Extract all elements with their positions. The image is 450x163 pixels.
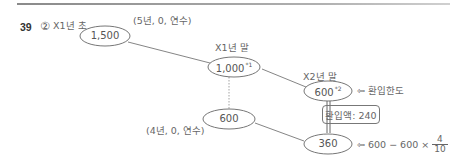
reversal-amount-text: 환입액: 240 xyxy=(325,108,376,122)
node-1000: 1,000*1 xyxy=(208,62,260,74)
formula-denominator: 10 xyxy=(432,145,447,154)
answer-choice: ② xyxy=(40,20,50,33)
node-600-top: 600*2 xyxy=(304,86,352,98)
node-1500: 1,500 xyxy=(80,31,130,41)
edge-600bottom-360 xyxy=(255,123,304,141)
node-600-top-value: 600 xyxy=(315,87,334,98)
node-600-bottom: 600 xyxy=(203,114,255,124)
formula: ⇦ 600 − 600 × 4 10 xyxy=(357,135,448,155)
node-600-top-footnote: *2 xyxy=(335,85,342,92)
node-1000-value: 1,000 xyxy=(216,63,245,74)
node-360: 360 xyxy=(304,139,352,149)
formula-prefix: ⇦ 600 − 600 × xyxy=(357,140,429,150)
formula-fraction: 4 10 xyxy=(432,135,447,155)
label-x1-start: X1년 초 xyxy=(53,21,87,31)
node-1500-value: 1,500 xyxy=(91,30,120,41)
question-number: 39 xyxy=(20,21,32,33)
node-360-value: 360 xyxy=(318,138,337,149)
edge-1000-600top xyxy=(262,69,306,87)
label-x2-end: X2년 말 xyxy=(303,72,337,82)
label-x1-end: X1년 말 xyxy=(215,43,249,53)
label-terms-bottom: (4년, 0, 연수) xyxy=(146,126,205,136)
node-600-bottom-value: 600 xyxy=(219,113,238,124)
label-terms-top: (5년, 0, 연수) xyxy=(133,16,192,26)
edge-1500-1000 xyxy=(128,42,210,63)
node-1000-footnote: *1 xyxy=(245,61,252,68)
label-recoverable-limit: ⇦ 환입한도 xyxy=(357,86,404,96)
reversal-amount-box: 환입액: 240 xyxy=(322,105,380,124)
